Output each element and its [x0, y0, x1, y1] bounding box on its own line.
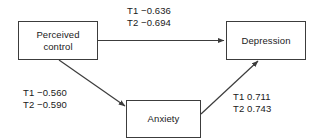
edge-control-to-anxiety — [59, 60, 125, 106]
edge-label-anxiety-to-depression: T1 0.711 T2 0.743 — [233, 91, 271, 115]
node-anxiety: Anxiety — [126, 100, 201, 138]
edge-label-control-to-anxiety: T1 −0.560 T2 −0.590 — [23, 87, 67, 111]
node-anxiety-label: Anxiety — [148, 113, 180, 125]
node-perceived-control: Perceived control — [18, 21, 98, 60]
edge-label-control-to-depression: T1 −0.636 T2 −0.694 — [127, 5, 171, 29]
path-diagram: Perceived control Depression Anxiety T1 … — [0, 0, 313, 140]
node-perceived-control-label: Perceived control — [36, 29, 79, 53]
node-depression: Depression — [226, 21, 306, 60]
node-depression-label: Depression — [241, 35, 290, 47]
